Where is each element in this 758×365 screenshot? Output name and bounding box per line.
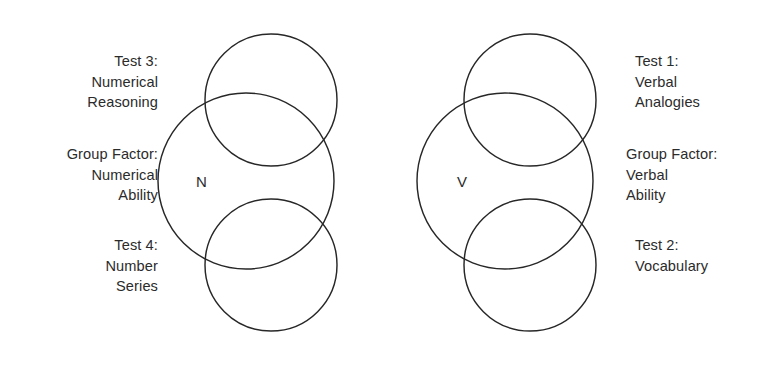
- caption-numerical-test-upper: Test 3: Numerical Reasoning: [0, 51, 158, 113]
- caption-line: Ability: [0, 185, 158, 206]
- circle-numerical-group-factor: [158, 93, 334, 269]
- caption-line: Ability: [626, 185, 758, 206]
- caption-verbal-group-factor: Group Factor: Verbal Ability: [626, 144, 758, 206]
- caption-line: Test 2:: [635, 235, 758, 256]
- circle-numerical-test-upper: [205, 34, 337, 166]
- caption-verbal-test-lower: Test 2: Vocabulary: [635, 235, 758, 276]
- factor-letter-numerical: N: [196, 174, 207, 189]
- circle-verbal-test-upper: [464, 34, 596, 166]
- caption-line: Group Factor:: [0, 144, 158, 165]
- venn-diagram-figure: N V Test 3: Numerical Reasoning Group Fa…: [0, 0, 758, 365]
- caption-line: Numerical: [0, 72, 158, 93]
- factor-letter-verbal: V: [457, 174, 467, 189]
- caption-line: Test 1:: [635, 51, 758, 72]
- caption-line: Test 3:: [0, 51, 158, 72]
- caption-line: Verbal: [626, 165, 758, 186]
- circle-verbal-group-factor: [417, 93, 593, 269]
- caption-line: Number: [0, 256, 158, 277]
- caption-line: Verbal: [635, 72, 758, 93]
- caption-line: Reasoning: [0, 92, 158, 113]
- caption-line: Test 4:: [0, 235, 158, 256]
- caption-line: Vocabulary: [635, 256, 758, 277]
- caption-line: Numerical: [0, 165, 158, 186]
- caption-verbal-test-upper: Test 1: Verbal Analogies: [635, 51, 758, 113]
- caption-line: Series: [0, 276, 158, 297]
- caption-line: Analogies: [635, 92, 758, 113]
- caption-numerical-group-factor: Group Factor: Numerical Ability: [0, 144, 158, 206]
- caption-line: Group Factor:: [626, 144, 758, 165]
- caption-numerical-test-lower: Test 4: Number Series: [0, 235, 158, 297]
